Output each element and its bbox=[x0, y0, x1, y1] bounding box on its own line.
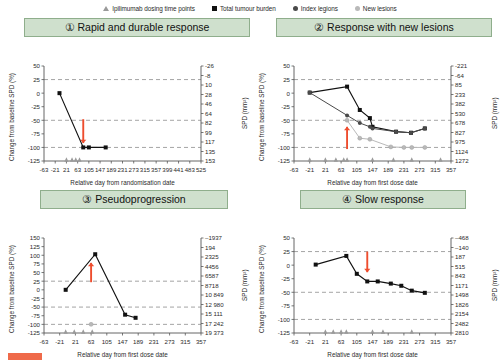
data-point-marker bbox=[423, 291, 427, 295]
data-point-marker bbox=[368, 137, 372, 141]
y-tick-label: 50 bbox=[12, 62, 40, 69]
plot-canvas-panel3 bbox=[44, 238, 201, 347]
data-point-marker bbox=[123, 313, 127, 317]
y2-tick-label: 135 bbox=[205, 148, 239, 155]
dosing-triangle-marker bbox=[410, 329, 414, 333]
data-point-marker bbox=[368, 116, 372, 120]
plot-area-panel4 bbox=[294, 238, 451, 333]
data-point-marker bbox=[402, 145, 406, 149]
y-tick-label: -50 bbox=[262, 289, 290, 296]
y2-tick-label: 8718 bbox=[205, 282, 239, 289]
data-point-marker bbox=[87, 145, 91, 149]
y-tick-label: 25 bbox=[12, 278, 40, 285]
y-tick-label: 0 bbox=[12, 90, 40, 97]
y-tick-label: -50 bbox=[12, 117, 40, 124]
dosing-triangle-marker bbox=[370, 329, 374, 333]
y2-tick-label: 15 111 bbox=[205, 310, 239, 317]
annotation-arrow-head bbox=[344, 127, 350, 130]
y2-tick-label: 1498 bbox=[455, 291, 489, 298]
y-axis-title: Change from baseline SPD (%) bbox=[8, 73, 15, 161]
y2-tick-label: 678 bbox=[455, 119, 489, 126]
dosing-triangle-marker bbox=[72, 329, 76, 333]
y-tick-label: -100 bbox=[12, 144, 40, 151]
legend-item-dosing: Ipilimumab dosing time points bbox=[103, 5, 195, 12]
y-tick-label: 25 bbox=[12, 76, 40, 83]
y2-tick-label: -64 bbox=[455, 72, 489, 79]
y2-tick-label: 46 bbox=[205, 100, 239, 107]
data-point-marker bbox=[399, 284, 403, 288]
chart-panel-panel1: ① Rapid and durable response50250-25-50-… bbox=[0, 18, 250, 188]
y2-tick-label: 6587 bbox=[205, 272, 239, 279]
y-axis-title: Change from baseline SPD (%) bbox=[8, 245, 15, 333]
data-point-marker bbox=[345, 85, 349, 89]
dosing-triangle-marker bbox=[70, 157, 74, 161]
y2-tick-label: –140 bbox=[455, 244, 489, 251]
y-tick-label: -125 bbox=[12, 157, 40, 164]
x-tick-label: 525 bbox=[190, 166, 212, 173]
legend-label-new-lesions: New lesions bbox=[363, 5, 397, 12]
data-point-marker bbox=[389, 145, 393, 149]
y-tick-label: 100 bbox=[12, 252, 40, 259]
data-point-marker bbox=[314, 263, 318, 267]
chart-panel-panel2: ② Response with new lesions50250-25-50-7… bbox=[250, 18, 500, 188]
y-tick-label: -75 bbox=[262, 302, 290, 309]
dosing-triangle-marker bbox=[77, 157, 81, 161]
data-point-marker bbox=[410, 145, 414, 149]
y2-tick-label: 1171 bbox=[455, 282, 489, 289]
y2-axis-title: SPD (mm²) bbox=[491, 269, 498, 300]
plot-canvas-panel1 bbox=[44, 66, 201, 175]
y-tick-label: 0 bbox=[262, 262, 290, 269]
y-axis-title: Change from baseline SPD (%) bbox=[258, 73, 265, 161]
y2-tick-label: 17 242 bbox=[205, 320, 239, 327]
y-tick-label: 0 bbox=[262, 90, 290, 97]
y2-tick-label: 1272 bbox=[455, 157, 489, 164]
dosing-triangle-marker bbox=[339, 329, 343, 333]
data-point-marker bbox=[409, 131, 413, 135]
y2-tick-label: 19 373 bbox=[205, 329, 239, 336]
y2-tick-label: 515 bbox=[455, 263, 489, 270]
data-point-marker bbox=[57, 91, 61, 95]
panel-title-panel4: ④ Slow response bbox=[300, 190, 466, 209]
dosing-triangle-marker bbox=[334, 157, 338, 161]
plot-area-panel1 bbox=[44, 66, 201, 161]
dosing-triangle-marker bbox=[74, 157, 78, 161]
plot-area-panel3 bbox=[44, 238, 201, 333]
dosing-triangle-marker bbox=[342, 157, 346, 161]
data-point-marker bbox=[358, 121, 362, 125]
plot-canvas-panel4 bbox=[294, 238, 451, 347]
annotation-arrow-head bbox=[88, 263, 94, 266]
y2-tick-label: 2154 bbox=[455, 310, 489, 317]
circle-light-marker-icon bbox=[355, 6, 360, 11]
data-point-marker bbox=[93, 252, 97, 256]
y-tick-label: -50 bbox=[262, 117, 290, 124]
y2-tick-label: 10 bbox=[205, 81, 239, 88]
y-tick-label: -25 bbox=[12, 103, 40, 110]
data-point-marker bbox=[423, 145, 427, 149]
y-tick-label: -25 bbox=[12, 295, 40, 302]
dosing-triangle-marker bbox=[381, 329, 385, 333]
y-tick-label: -100 bbox=[262, 316, 290, 323]
plot-canvas-panel2 bbox=[294, 66, 451, 175]
chart-panel-panel3: ③ Pseudoprogression1501251007550250-25-5… bbox=[0, 190, 250, 360]
y2-tick-label: 2482 bbox=[455, 320, 489, 327]
y2-tick-label: 153 bbox=[205, 157, 239, 164]
y-tick-label: 50 bbox=[262, 234, 290, 241]
x-axis-title: Relative day from first dose date bbox=[327, 179, 417, 186]
dosing-triangle-marker bbox=[345, 157, 349, 161]
y-tick-label: -25 bbox=[262, 103, 290, 110]
data-point-marker bbox=[358, 108, 362, 112]
y-tick-label: -75 bbox=[262, 130, 290, 137]
y2-tick-label: 827 bbox=[455, 129, 489, 136]
y2-tick-label: 975 bbox=[455, 138, 489, 145]
y2-tick-label: 10 849 bbox=[205, 291, 239, 298]
chart-panel-panel4: ④ Slow response50250-25-50-75-100-125281… bbox=[250, 190, 500, 360]
figure-root: Ipilimumab dosing time points Total tumo… bbox=[0, 0, 500, 360]
y2-tick-label: 1124 bbox=[455, 148, 489, 155]
y-tick-label: -75 bbox=[12, 312, 40, 319]
y2-tick-label: -26 bbox=[205, 62, 239, 69]
y2-tick-label: –468 bbox=[455, 234, 489, 241]
annotation-arrow-head bbox=[364, 269, 370, 272]
y-tick-label: -125 bbox=[262, 329, 290, 336]
y2-tick-label: 85 bbox=[455, 81, 489, 88]
y-tick-label: 75 bbox=[12, 260, 40, 267]
